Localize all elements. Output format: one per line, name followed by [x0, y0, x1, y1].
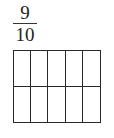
fraction-label: 9 10	[13, 4, 37, 44]
grid-cell	[83, 87, 100, 123]
grid-cell	[66, 87, 83, 123]
fraction-numerator: 9	[13, 4, 37, 22]
grid-cell	[31, 51, 48, 87]
grid-cell	[14, 51, 31, 87]
grid-cell	[48, 51, 65, 87]
fraction-denominator: 10	[13, 26, 37, 44]
grid-cell	[66, 51, 83, 87]
grid-cell	[31, 87, 48, 123]
grid-cell	[83, 51, 100, 87]
grid-cell	[48, 87, 65, 123]
fraction-grid	[13, 50, 101, 123]
grid-cell	[14, 87, 31, 123]
